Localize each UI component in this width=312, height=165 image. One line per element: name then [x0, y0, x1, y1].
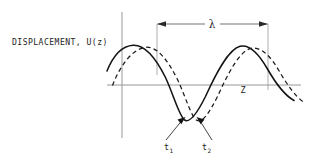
t1-label: t [164, 142, 169, 152]
wavelength-dimension-group: λ [157, 18, 268, 90]
y-axis-label: DISPLACEMENT, U(z) [12, 37, 108, 47]
arrow-left-icon [157, 21, 166, 26]
wave-curve-solid-t1 [107, 45, 294, 120]
t2-label-group: t 2 [202, 142, 212, 154]
wavelength-label: λ [209, 18, 216, 30]
wave-curve-dashed-t2 [113, 47, 305, 121]
t1-subscript: 1 [170, 147, 174, 154]
arrow-right-icon [259, 21, 268, 26]
t2-label: t [202, 142, 207, 152]
z-axis-label: Z [240, 85, 245, 95]
t2-subscript: 2 [208, 147, 212, 154]
wave-figure-canvas: λ DISPLACEMENT, U(z) Z t 1 t 2 [0, 0, 312, 165]
t1-label-group: t 1 [164, 142, 174, 154]
wave-diagram-figure: λ DISPLACEMENT, U(z) Z t 1 t 2 [0, 0, 312, 165]
